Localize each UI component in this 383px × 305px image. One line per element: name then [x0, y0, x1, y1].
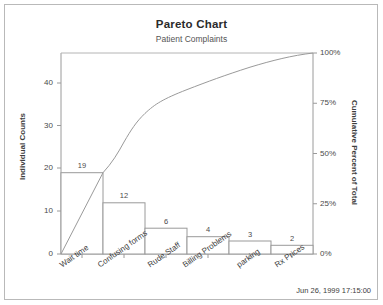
bar-value-label-rude-staff: 6 — [145, 217, 187, 226]
y-left-tick-label-20: 20 — [29, 163, 53, 172]
y-right-tick-label-0: 0% — [320, 249, 350, 258]
y-left-tick-label-0: 0 — [29, 249, 53, 258]
y-axis-left-title: Individual Counts — [18, 97, 27, 197]
bar-value-label-rx-prices: 2 — [271, 234, 313, 243]
y-right-tick-label-75: 75% — [320, 98, 350, 107]
timestamp-label: Jun 26, 1999 17:15:00 — [296, 286, 371, 295]
y-axis-right-title: Cumulative Percent of Total — [350, 93, 359, 213]
y-left-tick-label-10: 10 — [29, 206, 53, 215]
y-right-tick-label-100: 100% — [320, 48, 350, 57]
y-right-tick-label-50: 50% — [320, 149, 350, 158]
y-left-tick-label-30: 30 — [29, 121, 53, 130]
bar-value-label-wait-time: 19 — [61, 161, 103, 170]
y-right-tick-label-25: 25% — [320, 199, 350, 208]
right-axis-ticks — [313, 53, 317, 254]
pareto-chart-image: Pareto Chart Patient Complaints — [0, 0, 383, 305]
bar-value-label-parking: 3 — [229, 230, 271, 239]
bar-value-label-confusing-forms: 12 — [103, 191, 145, 200]
y-left-tick-label-40: 40 — [29, 78, 53, 87]
